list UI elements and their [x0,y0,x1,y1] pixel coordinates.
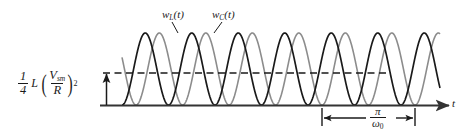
leader-line-wc [214,22,222,33]
period-label: π ω0 [370,106,386,131]
inductance-symbol: L [31,76,38,91]
exponent-two: 2 [74,79,78,88]
label-capacitor-energy: wC(t) [212,8,235,22]
right-paren: ) [68,71,73,96]
one-quarter-fraction: 1 4 [18,70,28,97]
axis-label-time: t [452,97,455,109]
fraction-numerator: 1 [18,70,28,83]
leader-line-wl [172,22,178,33]
fraction-numerator-v: Vsm [47,69,67,83]
label-inductor-energy: wL(t) [162,8,184,22]
half-peak-level-equation: 1 4 L ( Vsm R )2 [18,62,100,104]
period-denominator: ω0 [370,117,386,131]
curve-capacitor-energy [122,33,440,105]
left-paren: ( [42,71,47,96]
fraction-denominator-r: R [51,83,63,97]
period-numerator: π [373,106,383,117]
fraction-denominator: 4 [18,83,28,97]
figure-container: 1 4 L ( Vsm R )2 wL(t) wC(t) t π ω0 [0,0,468,140]
voltage-resistance-fraction: Vsm R [47,69,67,96]
